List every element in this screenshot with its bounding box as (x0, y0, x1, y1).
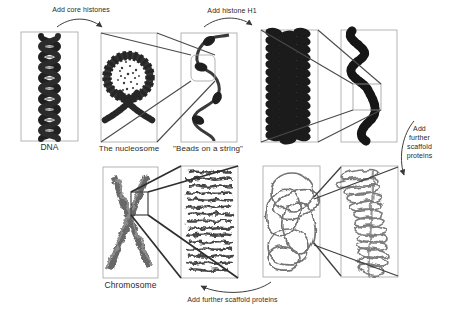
nucleosome-figure (105, 56, 152, 121)
beads-on-string-figure (190, 34, 229, 141)
scaffold-loops-figure (338, 168, 389, 277)
stage-label-nucleosome: The nucleosome (94, 144, 164, 153)
stage-label-dna: DNA (21, 142, 78, 152)
annotation-add-histone-h1: Add histone H1 (189, 7, 275, 14)
add-core-histones-arrow (57, 19, 102, 27)
tangled-box (263, 166, 320, 277)
diagram-canvas (0, 0, 457, 313)
add-histone-h1-arrow (204, 18, 252, 27)
chromatin-packing-diagram: Add core histones Add histone H1 DNA The… (0, 0, 457, 313)
add-scaffold-bottom-arrow (201, 282, 271, 292)
dna-helix-figure (41, 36, 58, 139)
annotation-add-core-histones: Add core histones (38, 6, 124, 13)
zigzag-fiber-figure (350, 31, 381, 141)
solenoid-fiber-figure (265, 26, 312, 145)
tangled-loops-figure (261, 173, 323, 272)
annotation-add-further-scaffold-bottom: Add further scaffold proteins (180, 296, 285, 303)
stage-boxes (21, 30, 398, 278)
stage-label-beads-on-a-string: "Beads on a string" (168, 144, 248, 153)
annotation-add-further-scaffold-right: Add further scaffold proteins (399, 124, 440, 160)
nucleosome-core-speckles (117, 61, 140, 91)
condensed-section-figure (186, 171, 233, 271)
stage-label-chromosome: Chromosome (97, 280, 164, 290)
chromosome-figure (108, 176, 151, 268)
